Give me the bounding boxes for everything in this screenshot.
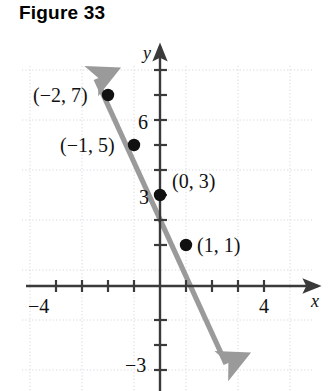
y-tick-label-6: 6	[138, 112, 148, 132]
y-axis-label: y	[143, 44, 151, 62]
x-tick-label-4: 4	[259, 296, 269, 316]
x-axis-label: x	[311, 292, 319, 310]
y-axis	[154, 46, 167, 391]
x-tick-label-neg4: −4	[28, 296, 49, 316]
y-tick-label-neg3: −3	[125, 355, 146, 375]
data-point	[128, 139, 140, 151]
data-point	[154, 189, 166, 201]
point-label-0-3: (0, 3)	[172, 171, 215, 191]
point-label-neg1-5: (−1, 5)	[60, 135, 115, 155]
x-axis	[26, 280, 318, 292]
figure-container: Figure 33	[0, 0, 335, 391]
point-label-neg2-7: (−2, 7)	[33, 85, 88, 105]
coordinate-plane: −4 4 6 3 −3 y x (−2, 7) (−1, 5) (0, 3) (…	[0, 40, 335, 391]
data-point	[102, 89, 114, 101]
y-tick-label-3: 3	[139, 187, 149, 207]
data-point	[180, 239, 192, 251]
point-label-1-1: (1, 1)	[197, 235, 240, 255]
figure-title: Figure 33	[19, 2, 105, 24]
